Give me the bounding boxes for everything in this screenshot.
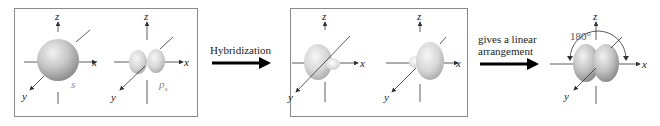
- px-lobe-negative: [129, 50, 147, 74]
- arc-arrow-right-icon: [623, 56, 629, 61]
- x-axis-label: x: [360, 57, 365, 69]
- y-axis-label: y: [22, 90, 27, 102]
- sp-small-lobe: [326, 58, 340, 70]
- y-axis-label: y: [564, 90, 569, 102]
- angle-label: 180°: [570, 30, 591, 42]
- sp-hybrid-minus-x-figure: [292, 22, 358, 102]
- x-axis-label: x: [456, 57, 461, 69]
- z-axis-label: z: [322, 10, 326, 22]
- z-axis-label: z: [593, 10, 597, 22]
- linear-arrangement-label-line1: gives a linear: [478, 33, 537, 45]
- linear-arrangement-label-line2: arrangement: [478, 45, 533, 57]
- orbital-diagram: [0, 0, 660, 126]
- s-orbital-label: s: [71, 78, 75, 90]
- px-orbital-label: px: [159, 78, 168, 95]
- y-axis-label: y: [288, 91, 293, 103]
- y-axis-icon: [392, 68, 416, 92]
- px-lobe-positive: [147, 49, 165, 73]
- x-axis-label: x: [92, 56, 97, 68]
- s-orbital-figure: [24, 22, 96, 104]
- arc-arrow-left-icon: [567, 56, 573, 61]
- z-axis-label: z: [55, 10, 59, 22]
- y-axis-icon: [30, 76, 44, 90]
- y-axis-label: y: [384, 91, 389, 103]
- s-orbital-sphere: [37, 39, 79, 81]
- hybridization-label: Hybridization: [210, 44, 271, 56]
- z-axis-label: z: [417, 10, 421, 22]
- x-axis-label: x: [642, 58, 647, 70]
- sp-large-lobe: [416, 42, 444, 80]
- y-axis-back: [76, 30, 90, 42]
- sp-lobe-right: [593, 44, 619, 82]
- z-axis-label: z: [144, 10, 148, 22]
- y-axis-label: y: [111, 91, 116, 103]
- sp-hybrid-plus-x-figure: [386, 22, 458, 102]
- px-label-subscript: x: [165, 85, 168, 93]
- x-axis-label: x: [184, 56, 189, 68]
- px-orbital-figure: [114, 22, 183, 104]
